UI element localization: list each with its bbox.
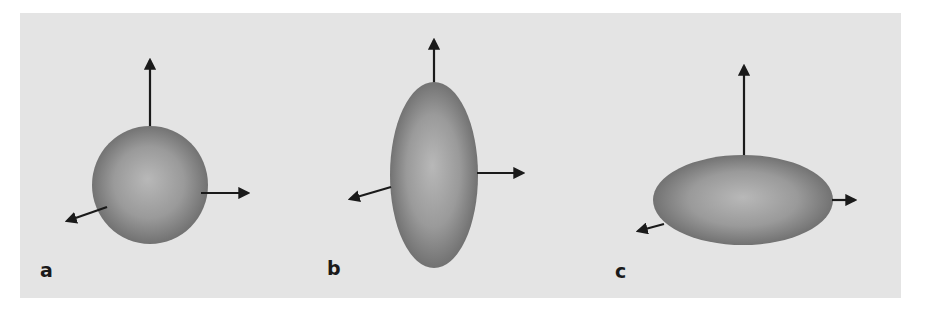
panel-c-oblate-ellipsoid: [638, 66, 855, 245]
panel-a-sphere: [67, 60, 248, 244]
panel-label-a: a: [40, 261, 53, 280]
oblate-ellipsoid-shape: [653, 155, 833, 245]
panel-label-b: b: [327, 259, 341, 278]
sphere-shape: [92, 126, 208, 244]
axis-arrow-front-left: [638, 224, 664, 231]
ellipsoid-diagram: [0, 0, 930, 310]
panel-b-prolate-ellipsoid: [350, 40, 523, 268]
prolate-ellipsoid-shape: [390, 82, 478, 268]
axis-arrow-front-left: [350, 187, 391, 199]
panel-label-c: c: [615, 262, 626, 281]
